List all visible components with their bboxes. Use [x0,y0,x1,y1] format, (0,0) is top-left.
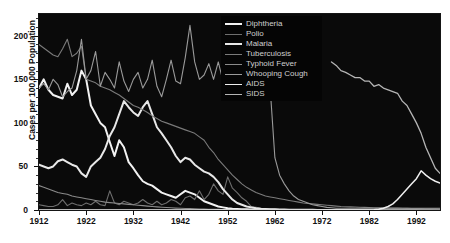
legend-swatch-icon [225,84,242,85]
x-tick-mark [322,211,323,215]
legend-swatch-icon [225,43,242,45]
y-tick-label: 0 [2,205,28,215]
legend-swatch-icon [225,94,242,95]
legend-item[interactable]: AIDS [225,79,318,89]
chart-title [36,0,336,7]
legend-item[interactable]: Typhoid Fever [225,59,318,69]
legend-swatch-icon [225,54,242,55]
legend-label: Malaria [246,39,272,49]
x-tick-label: 1992 [396,216,436,226]
x-tick-mark [228,211,229,215]
legend-swatch-icon [225,74,242,75]
x-tick-mark [275,211,276,215]
y-tick-label: 50 [2,161,28,171]
y-tick-label: 100 [2,118,28,128]
x-tick-label: 1972 [302,216,342,226]
legend: DiphtheriaPolioMalariaTuberculosisTyphoi… [221,16,322,101]
y-tick-label: 150 [2,74,28,84]
series-line-sids [331,62,440,174]
legend-label: Diphtheria [246,19,282,29]
legend-swatch-icon [225,34,242,35]
legend-swatch-icon [225,23,242,25]
x-tick-label: 1982 [349,216,389,226]
x-tick-mark [86,211,87,215]
x-tick-label: 1942 [161,216,201,226]
legend-label: Typhoid Fever [246,59,297,69]
chart-figure: Cases per 100,000 Population 05010015020… [0,0,450,243]
series-line-typhoid-fever [39,186,440,210]
x-tick-mark [39,211,40,215]
legend-label: Polio [246,29,264,39]
legend-item[interactable]: Tuberculosis [225,49,318,59]
x-tick-label: 1922 [66,216,106,226]
x-tick-label: 1932 [113,216,153,226]
legend-item[interactable]: Whooping Cough [225,69,318,79]
legend-label: Whooping Cough [246,69,308,79]
x-tick-mark [133,211,134,215]
series-line-malaria [39,101,440,210]
x-tick-mark [369,211,370,215]
x-tick-label: 1952 [208,216,248,226]
legend-label: Tuberculosis [246,49,291,59]
legend-item[interactable]: Malaria [225,39,318,49]
legend-label: SIDS [246,89,265,99]
legend-label: AIDS [246,79,265,89]
legend-item[interactable]: Diphtheria [225,19,318,29]
x-tick-label: 1912 [19,216,59,226]
x-tick-label: 1962 [255,216,295,226]
legend-item[interactable]: SIDS [225,89,318,99]
y-tick-label: 200 [2,31,28,41]
legend-item[interactable]: Polio [225,29,318,39]
x-tick-mark [416,211,417,215]
x-tick-mark [181,211,182,215]
legend-swatch-icon [225,64,242,65]
